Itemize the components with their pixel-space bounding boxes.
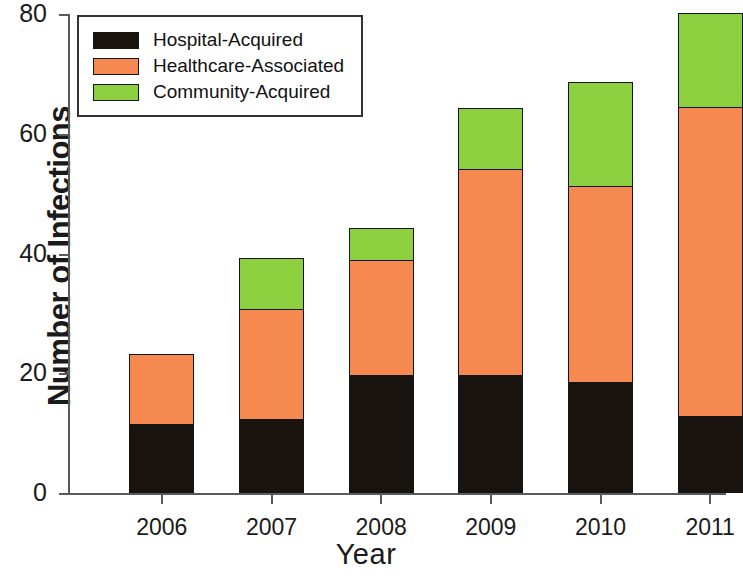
bar-segment-hospital-acquired-2008 xyxy=(349,375,414,493)
bar-segment-hospital-acquired-2011 xyxy=(678,415,743,493)
legend-swatch-icon xyxy=(93,84,139,101)
x-tick-mark xyxy=(380,493,382,504)
x-tick-label: 2008 xyxy=(356,514,407,541)
y-tick-mark: 80 xyxy=(59,14,68,16)
x-tick-mark xyxy=(490,493,492,504)
bar-segment-hospital-acquired-2009 xyxy=(458,375,523,493)
y-tick-mark: 20 xyxy=(59,373,68,375)
bar-segment-community-acquired-2010 xyxy=(568,82,633,187)
y-tick-label: 0 xyxy=(33,478,47,507)
x-axis-line xyxy=(68,493,726,495)
bar-segment-community-acquired-2007 xyxy=(239,258,304,310)
y-tick-mark: 60 xyxy=(59,134,68,136)
bar-segment-healthcare-associated-2009 xyxy=(458,168,523,376)
chart-legend: Hospital-AcquiredHealthcare-AssociatedCo… xyxy=(77,15,363,117)
y-tick-label: 20 xyxy=(19,358,47,387)
legend-item: Community-Acquired xyxy=(93,79,349,105)
y-tick-label: 40 xyxy=(19,238,47,267)
bar-segment-hospital-acquired-2006 xyxy=(129,424,194,493)
x-tick-mark xyxy=(600,493,602,504)
legend-swatch-icon xyxy=(93,32,139,49)
legend-item-label: Community-Acquired xyxy=(153,81,330,103)
y-axis-line xyxy=(68,14,70,493)
bar-segment-community-acquired-2011 xyxy=(678,13,743,109)
legend-item-label: Hospital-Acquired xyxy=(153,29,303,51)
bar-segment-healthcare-associated-2008 xyxy=(349,260,414,376)
bar-segment-healthcare-associated-2011 xyxy=(678,107,743,417)
y-tick-mark: 0 xyxy=(59,493,68,495)
bar-segment-hospital-acquired-2007 xyxy=(239,418,304,493)
x-tick-label: 2006 xyxy=(136,514,187,541)
legend-swatch-icon xyxy=(93,58,139,75)
legend-item-label: Healthcare-Associated xyxy=(153,55,344,77)
bar-segment-healthcare-associated-2010 xyxy=(568,186,633,383)
bar-segment-healthcare-associated-2007 xyxy=(239,309,304,420)
x-tick-mark xyxy=(709,493,711,504)
y-tick-label: 60 xyxy=(19,119,47,148)
bar-2011 xyxy=(678,14,743,493)
bar-2010 xyxy=(568,14,633,493)
x-tick-mark xyxy=(271,493,273,504)
x-tick-mark xyxy=(161,493,163,504)
bar-segment-hospital-acquired-2010 xyxy=(568,381,633,493)
legend-item: Hospital-Acquired xyxy=(93,27,349,53)
legend-item: Healthcare-Associated xyxy=(93,53,349,79)
bar-2009 xyxy=(458,14,523,493)
y-tick-mark: 40 xyxy=(59,254,68,256)
y-tick-label: 80 xyxy=(19,0,47,28)
x-tick-label: 2010 xyxy=(575,514,626,541)
x-tick-label: 2007 xyxy=(246,514,297,541)
bar-segment-community-acquired-2008 xyxy=(349,228,414,261)
x-tick-label: 2011 xyxy=(685,514,734,541)
x-tick-label: 2009 xyxy=(465,514,516,541)
x-axis-title: Year xyxy=(0,538,732,571)
bar-segment-healthcare-associated-2006 xyxy=(129,354,194,426)
bar-segment-community-acquired-2009 xyxy=(458,108,523,169)
